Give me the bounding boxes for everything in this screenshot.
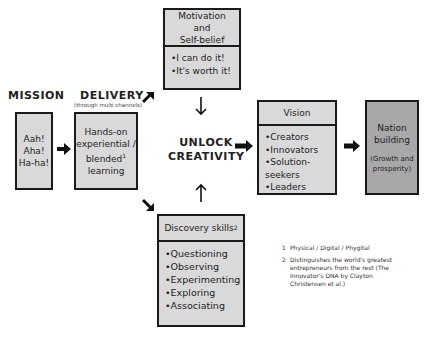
delivery-line: learning — [76, 165, 136, 177]
footnote-text: Physical / Digital / Phygital — [290, 244, 370, 252]
list-item: Experimenting — [165, 273, 243, 286]
motivation-list: I can do it! It's worth it! — [165, 47, 239, 77]
list-item: I can do it! — [171, 52, 239, 65]
down-right-arrow-icon — [141, 198, 155, 212]
footnote-text: Distinguishes the world's greatest entre… — [290, 256, 392, 288]
mission-box: Aah! Aha! Ha-ha! — [15, 112, 53, 190]
list-item: Exploring — [165, 286, 243, 299]
delivery-box: Hands-on experiential / blended1 learnin… — [74, 112, 138, 190]
mission-line: Aah! — [17, 133, 51, 145]
delivery-subheading: (through multi channels) — [74, 102, 142, 108]
footnote-line: Innovator's DNA by Clayton — [290, 272, 392, 280]
discovery-list: Questioning Observing Experimenting Expl… — [159, 242, 243, 312]
footnote-ref: 1 — [122, 152, 126, 159]
list-item: Innovators — [265, 144, 335, 157]
center-line: UNLOCK — [168, 136, 244, 150]
list-item: It's worth it! — [171, 65, 239, 78]
up-arrow-icon — [195, 183, 207, 203]
footnote-line: Christensen et al.) — [290, 280, 392, 288]
right-arrow-icon — [57, 143, 71, 155]
unlock-creativity: UNLOCK CREATIVITY — [168, 136, 244, 164]
center-line: CREATIVITY — [168, 150, 244, 164]
delivery-line: Hands-on — [76, 126, 136, 138]
right-arrow-icon — [235, 140, 253, 152]
list-item: Observing — [165, 260, 243, 273]
footnote-line: Distinguishes the world's greatest — [290, 256, 392, 264]
nation-line: Nation — [367, 122, 417, 134]
vision-box: Vision Creators Innovators Solution-seek… — [257, 100, 337, 195]
nation-line: building — [367, 134, 417, 146]
list-item: Associating — [165, 299, 243, 312]
footnote-number: 2 — [282, 256, 290, 288]
delivery-line: blended1 — [76, 150, 136, 165]
discovery-box: Discovery skills2 Questioning Observing … — [157, 214, 245, 327]
delivery-line-text: blended — [86, 154, 122, 164]
footnote-line: entrepreneurs from the rest (The — [290, 264, 392, 272]
motivation-box: Motivation and Self-belief I can do it! … — [163, 8, 241, 90]
list-item: Leaders — [265, 181, 335, 194]
nation-sub-line: prosperity) — [367, 164, 417, 174]
nation-building-box: Nation building (Growth and prosperity) — [365, 100, 419, 195]
vision-title: Vision — [259, 102, 335, 126]
footnote-ref: 2 — [234, 222, 238, 234]
nation-sub-line: (Growth and — [367, 154, 417, 164]
mission-line: Aha! — [17, 145, 51, 157]
list-item: Questioning — [165, 247, 243, 260]
down-arrow-icon — [195, 96, 207, 116]
motivation-title-line: Self-belief — [180, 34, 225, 46]
right-arrow-icon — [344, 140, 360, 152]
motivation-title: Motivation and Self-belief — [165, 10, 239, 47]
delivery-heading: DELIVERY — [80, 89, 144, 102]
discovery-title: Discovery skills2 — [159, 216, 243, 242]
mission-line: Ha-ha! — [17, 157, 51, 169]
motivation-title-line: Motivation and — [169, 10, 235, 34]
footnote-2: 2 Distinguishes the world's greatest ent… — [282, 256, 392, 288]
footnote-1: 1 Physical / Digital / Phygital — [282, 244, 370, 252]
mission-heading: MISSION — [8, 89, 65, 102]
footnote-number: 1 — [282, 244, 290, 252]
list-item: Creators — [265, 131, 335, 144]
list-item: Solution-seekers — [265, 156, 335, 181]
vision-list: Creators Innovators Solution-seekers Lea… — [259, 126, 335, 194]
up-right-arrow-icon — [141, 90, 155, 104]
discovery-title-text: Discovery skills — [164, 222, 233, 234]
delivery-line: experiential / — [76, 138, 136, 150]
